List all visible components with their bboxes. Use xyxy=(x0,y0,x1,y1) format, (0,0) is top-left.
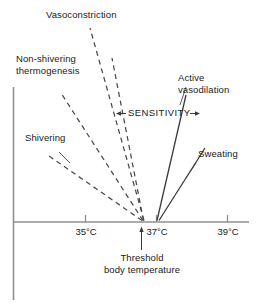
leader-shivering xyxy=(59,152,70,163)
label-threshold-line2: body temperature xyxy=(84,264,200,276)
x-tick-label-39c: 39°C xyxy=(207,226,249,237)
label-shivering: Shivering xyxy=(25,132,66,144)
sensitivity-left-arrow xyxy=(116,111,126,115)
label-non-shivering-thermogenesis: Non-shivering thermogenesis xyxy=(16,53,80,76)
x-tick-label-37c: 37°C xyxy=(136,226,178,237)
label-sensitivity: SENSITIVITY xyxy=(128,107,190,118)
label-active-vasodilation-line1: Active xyxy=(178,72,229,84)
label-active-vasodilation-line2: vasodilation xyxy=(178,84,229,96)
leader-sweating xyxy=(186,163,196,178)
label-sweating: Sweating xyxy=(198,148,238,160)
label-non-shivering-line2: thermogenesis xyxy=(16,65,80,77)
label-threshold-line1: Threshold xyxy=(84,252,200,264)
label-vasoconstriction: Vasoconstriction xyxy=(46,9,117,21)
label-threshold-body-temperature: Threshold body temperature xyxy=(84,252,200,275)
curve-vasoconstriction xyxy=(90,28,144,221)
thermoregulation-diagram: Vasoconstriction Non-shivering thermogen… xyxy=(0,0,267,304)
label-active-vasodilation: Active vasodilation xyxy=(178,72,229,95)
label-non-shivering-line1: Non-shivering xyxy=(16,53,80,65)
x-tick-label-35c: 35°C xyxy=(65,226,107,237)
sensitivity-right-arrow xyxy=(190,111,200,115)
